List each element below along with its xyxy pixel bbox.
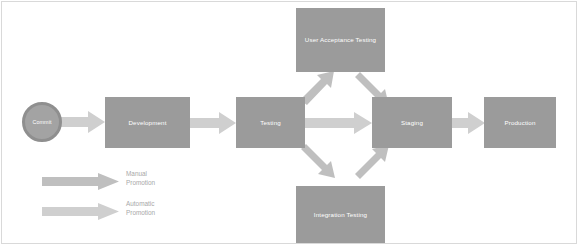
legend-item-manual: Manual Promotion (42, 170, 202, 194)
node-commit[interactable]: Commit (22, 102, 62, 142)
arrow-testing-to-staging (305, 112, 372, 134)
node-user-acceptance-testing[interactable]: User Acceptance Testing (296, 8, 385, 72)
node-user-acceptance-testing-label: User Acceptance Testing (305, 36, 376, 44)
pipeline-diagram: Commit Development Testing User Acceptan… (0, 0, 579, 246)
node-production[interactable]: Production (484, 97, 556, 148)
node-production-label: Production (504, 119, 535, 127)
legend-manual-label-line2: Promotion (126, 178, 202, 187)
node-staging[interactable]: Staging (372, 97, 452, 148)
arrow-integration-testing-to-staging (355, 145, 389, 179)
arrow-testing-to-integration-testing (301, 144, 335, 178)
arrow-testing-to-user-acceptance-testing (300, 71, 334, 105)
node-staging-label: Staging (401, 119, 423, 127)
node-development[interactable]: Development (105, 97, 190, 148)
node-development-label: Development (128, 119, 166, 127)
legend-automatic-arrow-icon (42, 203, 120, 220)
legend-automatic-label: Automatic Promotion (126, 199, 202, 218)
legend: Manual Promotion Automatic Promotion (42, 170, 202, 226)
node-testing-label: Testing (260, 119, 281, 127)
node-testing[interactable]: Testing (236, 97, 305, 148)
legend-manual-label-line1: Manual (126, 169, 202, 178)
node-commit-label: Commit (32, 119, 51, 125)
arrow-commit-to-development (56, 111, 105, 133)
arrow-development-to-testing (190, 112, 236, 134)
legend-item-automatic: Automatic Promotion (42, 200, 202, 224)
legend-automatic-label-line2: Promotion (126, 208, 202, 217)
legend-manual-label: Manual Promotion (126, 169, 202, 188)
arrow-staging-to-production (452, 112, 485, 134)
node-integration-testing-label: Integration Testing (314, 211, 367, 219)
legend-manual-arrow-icon (42, 173, 120, 190)
legend-automatic-label-line1: Automatic (126, 199, 202, 208)
node-integration-testing[interactable]: Integration Testing (296, 186, 385, 243)
